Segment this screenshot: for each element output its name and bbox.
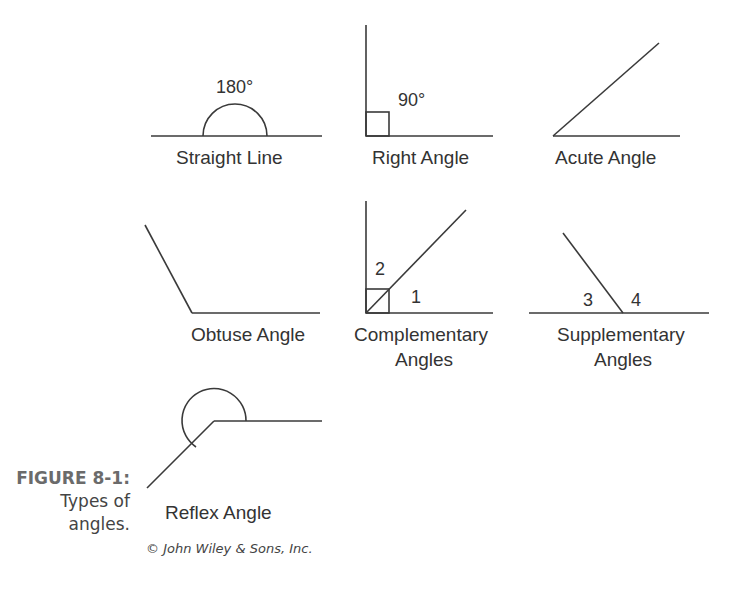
measure-180: 180° xyxy=(216,77,253,97)
caption-line1: Types of xyxy=(59,491,131,511)
straight-line-label: Straight Line xyxy=(176,147,283,168)
supplementary-label-line1: Supplementary xyxy=(557,324,685,345)
figure-number: FIGURE 8-1: xyxy=(16,468,130,488)
angle-2-label: 2 xyxy=(375,259,385,279)
straight-line-diagram: 180° Straight Line xyxy=(151,77,322,168)
reflex-arc-icon xyxy=(182,389,246,447)
angle-types-figure: 180° Straight Line 90° Right Angle Acute… xyxy=(0,0,734,614)
obtuse-angle-diagram: Obtuse Angle xyxy=(145,225,320,345)
caption-line2: angles. xyxy=(69,514,130,534)
arc-180-icon xyxy=(203,104,267,136)
reflex-angle-diagram: Reflex Angle xyxy=(147,389,322,523)
angle-3-label: 3 xyxy=(583,290,593,310)
right-angle-label: Right Angle xyxy=(372,147,469,168)
right-angle-diagram: 90° Right Angle xyxy=(366,25,493,168)
complementary-angles-diagram: 2 1 Complementary Angles xyxy=(354,201,493,370)
right-angle-marker-icon xyxy=(366,112,389,136)
measure-90: 90° xyxy=(398,90,425,110)
complementary-label-line2: Angles xyxy=(395,349,453,370)
obtuse-ray xyxy=(145,225,192,313)
complementary-label-line1: Complementary xyxy=(354,324,489,345)
acute-ray xyxy=(553,43,659,136)
reflex-angle-label: Reflex Angle xyxy=(165,502,272,523)
credit-line: © John Wiley & Sons, Inc. xyxy=(146,541,313,556)
angle-4-label: 4 xyxy=(631,290,641,310)
supplementary-angles-diagram: 3 4 Supplementary Angles xyxy=(529,233,709,370)
reflex-diagonal-ray xyxy=(147,421,214,488)
obtuse-angle-label: Obtuse Angle xyxy=(191,324,305,345)
supplementary-label-line2: Angles xyxy=(594,349,652,370)
acute-angle-label: Acute Angle xyxy=(555,147,656,168)
acute-angle-diagram: Acute Angle xyxy=(553,43,680,168)
angle-1-label: 1 xyxy=(411,287,421,307)
